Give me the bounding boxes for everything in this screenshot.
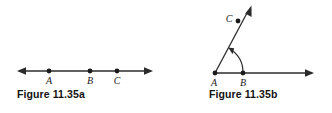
arrowhead-angle-arc-icon — [228, 48, 234, 55]
point-b-label-b: B — [240, 77, 246, 88]
point-a-dot — [47, 69, 52, 74]
arrowhead-right-icon — [144, 67, 153, 75]
figure-b-caption: Figure 11.35b — [209, 88, 277, 100]
arrowhead-left-icon — [17, 67, 26, 75]
point-b-label: B — [87, 75, 93, 86]
point-a-label: A — [45, 75, 53, 86]
point-b-dot — [241, 71, 246, 76]
point-c-label-b: C — [226, 13, 233, 24]
point-c-label: C — [114, 75, 121, 86]
point-c-dot — [115, 69, 120, 74]
point-b-dot — [88, 69, 93, 74]
figure-b-group: A B C — [210, 6, 314, 89]
arrowhead-ray-ab-icon — [305, 69, 314, 77]
figure-a-group: A B C — [17, 67, 153, 86]
vertex-a-label: A — [210, 77, 218, 88]
vertex-a-dot — [213, 71, 218, 76]
figure-a-caption: Figure 11.35a — [17, 88, 85, 100]
point-c-dot — [236, 19, 241, 24]
